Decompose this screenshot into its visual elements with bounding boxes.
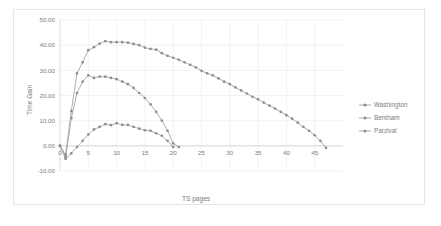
data-point-marker xyxy=(98,126,101,129)
data-point-marker xyxy=(161,119,164,122)
data-point-marker xyxy=(228,83,231,86)
data-point-marker xyxy=(104,40,107,43)
data-point-marker xyxy=(161,52,164,55)
chart-container: 051015202530354045 -10.000.0010.0020.003… xyxy=(0,0,441,226)
data-point-marker xyxy=(172,56,175,59)
data-point-marker xyxy=(64,158,67,161)
data-point-marker xyxy=(149,129,152,132)
data-point-marker xyxy=(87,49,90,52)
data-point-marker xyxy=(93,46,96,49)
legend-marker-dot xyxy=(364,130,367,133)
data-point-marker xyxy=(115,122,118,125)
data-point-marker xyxy=(217,77,220,80)
x-tick-label: 25 xyxy=(198,149,205,156)
data-point-marker xyxy=(127,124,130,127)
legend-marker-dot xyxy=(364,117,367,120)
data-point-marker xyxy=(189,63,192,66)
series-line-washington xyxy=(60,75,179,157)
y-tick-label: -10.00 xyxy=(37,167,55,174)
data-point-marker xyxy=(285,114,288,117)
data-point-marker xyxy=(245,92,248,95)
x-axis-tick-labels: 051015202530354045 xyxy=(58,149,318,156)
data-point-marker xyxy=(132,126,135,129)
x-tick-label: 40 xyxy=(283,149,290,156)
data-point-marker xyxy=(98,75,101,78)
chart-canvas: 051015202530354045 -10.000.0010.0020.003… xyxy=(0,0,441,226)
data-point-marker xyxy=(223,80,226,83)
data-point-marker xyxy=(262,101,265,104)
y-tick-label: 40.00 xyxy=(40,41,56,48)
data-point-marker xyxy=(313,134,316,137)
data-point-marker xyxy=(155,132,158,135)
data-point-marker xyxy=(110,77,113,80)
data-point-marker xyxy=(200,69,203,72)
data-point-marker xyxy=(172,142,175,145)
x-axis-title: TS pages xyxy=(182,195,211,203)
data-point-marker xyxy=(161,134,164,137)
data-point-marker xyxy=(155,48,158,51)
data-point-marker xyxy=(155,111,158,114)
data-point-marker xyxy=(166,129,169,132)
legend-label-parzival: Parzival xyxy=(374,127,397,134)
data-point-marker xyxy=(98,42,101,45)
data-point-marker xyxy=(132,87,135,90)
legend-label-washington: Washington xyxy=(374,101,408,109)
x-tick-label: 15 xyxy=(141,149,148,156)
y-axis-title: Time Gain xyxy=(26,85,33,116)
data-point-marker xyxy=(291,117,294,120)
data-point-marker xyxy=(325,147,328,150)
data-point-marker xyxy=(127,83,130,86)
y-tick-label: 20.00 xyxy=(40,92,56,99)
data-point-marker xyxy=(76,72,79,75)
data-point-marker xyxy=(93,128,96,131)
data-point-marker xyxy=(70,152,73,155)
y-axis-tick-labels: -10.000.0010.0020.0030.0040.0050.00 xyxy=(37,16,55,174)
legend-marker-dot xyxy=(364,104,367,107)
data-point-marker xyxy=(76,92,79,95)
data-point-marker xyxy=(76,146,79,149)
data-point-marker xyxy=(178,58,181,61)
data-point-marker xyxy=(115,41,118,44)
x-tick-label: 10 xyxy=(113,149,120,156)
data-point-marker xyxy=(166,54,169,57)
data-point-marker xyxy=(138,44,141,47)
data-point-marker xyxy=(268,104,271,107)
data-point-marker xyxy=(257,98,260,101)
data-point-marker xyxy=(93,77,96,80)
y-tick-label: 0.00 xyxy=(43,142,56,149)
x-tick-label: 20 xyxy=(170,149,177,156)
data-point-marker xyxy=(211,74,214,77)
data-point-marker xyxy=(121,80,124,83)
data-point-marker xyxy=(132,43,135,46)
data-point-marker xyxy=(64,153,67,156)
data-point-marker xyxy=(121,41,124,44)
data-point-marker xyxy=(81,61,84,64)
data-point-marker xyxy=(70,110,73,113)
x-tick-label: 35 xyxy=(255,149,262,156)
chart-legend: WashingtonBenthamParzival xyxy=(359,101,408,134)
x-tick-label: 0 xyxy=(58,149,62,156)
y-tick-label: 10.00 xyxy=(40,117,56,124)
data-point-marker xyxy=(166,139,169,142)
data-point-marker xyxy=(302,126,305,129)
data-point-marker xyxy=(110,124,113,127)
data-point-marker xyxy=(234,86,237,89)
data-point-marker xyxy=(138,92,141,95)
data-point-marker xyxy=(144,129,147,132)
y-tick-label: 30.00 xyxy=(40,67,56,74)
y-tick-label: 50.00 xyxy=(40,16,56,23)
data-point-marker xyxy=(104,75,107,78)
x-tick-label: 5 xyxy=(87,149,91,156)
data-point-marker xyxy=(87,133,90,136)
data-point-marker xyxy=(81,139,84,142)
data-point-marker xyxy=(121,124,124,127)
data-point-marker xyxy=(274,107,277,110)
data-point-marker xyxy=(149,48,152,51)
data-point-marker xyxy=(251,95,254,98)
data-point-marker xyxy=(308,129,311,132)
data-point-marker xyxy=(178,146,181,149)
x-tick-label: 30 xyxy=(226,149,233,156)
data-point-marker xyxy=(115,78,118,81)
data-point-marker xyxy=(194,66,197,69)
data-point-marker xyxy=(206,72,209,75)
